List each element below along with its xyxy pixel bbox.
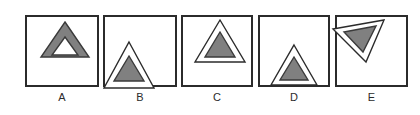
panel-e[interactable]: E <box>0 0 420 115</box>
panel-label-e: E <box>335 90 408 104</box>
shape-panels-figure: ABCDE <box>0 0 420 115</box>
